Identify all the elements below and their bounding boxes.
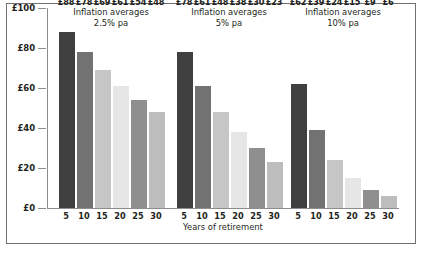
bar-value-label: £30 xyxy=(248,0,265,7)
y-axis-tick-label: £60 xyxy=(18,83,35,93)
bar[interactable]: £48 xyxy=(148,112,165,208)
bar-value-label: £61 xyxy=(194,0,211,7)
bar-slot: £6110 xyxy=(193,8,211,208)
y-axis-tick xyxy=(38,208,46,209)
x-axis-tick-label: 10 xyxy=(78,211,89,221)
bar-value-label: £23 xyxy=(266,0,283,7)
bar[interactable]: £30 xyxy=(248,148,265,208)
x-axis-tick-label: 30 xyxy=(268,211,279,221)
x-axis-line xyxy=(47,208,399,209)
bar[interactable]: £69 xyxy=(94,70,111,208)
x-axis-title: Years of retirement xyxy=(47,222,399,232)
y-axis-line xyxy=(47,8,48,209)
x-axis-tick-label: 30 xyxy=(382,211,393,221)
bar-group: Inflation averages2.5% pa£885£7810£6915£… xyxy=(57,8,165,208)
y-axis-tick-label: £100 xyxy=(12,3,35,13)
bar-slot: £7810 xyxy=(75,8,93,208)
bar[interactable]: £78 xyxy=(176,52,193,208)
bar[interactable]: £48 xyxy=(212,112,229,208)
bar[interactable]: £23 xyxy=(266,162,283,208)
y-axis-tick-label: £20 xyxy=(18,163,35,173)
bar[interactable]: £15 xyxy=(344,178,361,208)
bar[interactable]: £6 xyxy=(380,196,397,208)
bar-slot: £625 xyxy=(289,8,307,208)
x-axis-tick-label: 20 xyxy=(346,211,357,221)
bar-slot: £630 xyxy=(379,8,397,208)
x-axis-tick-label: 15 xyxy=(214,211,225,221)
bar-slot: £1520 xyxy=(343,8,361,208)
bar-value-label: £54 xyxy=(130,0,147,7)
bar-slot: £3025 xyxy=(247,8,265,208)
bar-slot: £785 xyxy=(175,8,193,208)
bar[interactable]: £78 xyxy=(76,52,93,208)
bar[interactable]: £54 xyxy=(130,100,147,208)
bar-value-label: £48 xyxy=(212,0,229,7)
bars-container: £885£7810£6915£6120£5425£4830 xyxy=(57,8,165,208)
bar-value-label: £78 xyxy=(76,0,93,7)
y-axis-tick xyxy=(38,88,46,89)
x-axis-tick-label: 15 xyxy=(328,211,339,221)
bar-group: Inflation averages10% pa£625£3910£2415£1… xyxy=(289,8,397,208)
x-axis-tick-label: 25 xyxy=(250,211,261,221)
y-axis-tick-label: £80 xyxy=(18,43,35,53)
bar[interactable]: £88 xyxy=(58,32,75,208)
y-axis-tick xyxy=(38,128,46,129)
bar-value-label: £6 xyxy=(383,0,394,7)
bars-container: £625£3910£2415£1520£925£630 xyxy=(289,8,397,208)
bar-slot: £6915 xyxy=(93,8,111,208)
bar-value-label: £88 xyxy=(58,0,75,7)
y-axis-tick-label: £0 xyxy=(23,203,35,213)
bar[interactable]: £61 xyxy=(112,86,129,208)
plot-area: £0£20£40£60£80£100 Inflation averages2.5… xyxy=(47,8,399,209)
bar-slot: £6120 xyxy=(111,8,129,208)
x-axis-tick-label: 25 xyxy=(132,211,143,221)
bar-value-label: £24 xyxy=(326,0,343,7)
bar-value-label: £62 xyxy=(290,0,307,7)
x-axis-tick-label: 5 xyxy=(295,211,301,221)
bar-value-label: £38 xyxy=(230,0,247,7)
x-axis-tick-label: 15 xyxy=(96,211,107,221)
bar-value-label: £69 xyxy=(94,0,111,7)
bar-slot: £4815 xyxy=(211,8,229,208)
bar-value-label: £78 xyxy=(176,0,193,7)
bar[interactable]: £38 xyxy=(230,132,247,208)
bar-value-label: £9 xyxy=(365,0,376,7)
x-axis-tick-label: 10 xyxy=(196,211,207,221)
bar-group: Inflation averages5% pa£785£6110£4815£38… xyxy=(175,8,283,208)
y-axis-tick xyxy=(38,8,46,9)
bar-slot: £5425 xyxy=(129,8,147,208)
x-axis-tick-label: 5 xyxy=(63,211,69,221)
bar-slot: £4830 xyxy=(147,8,165,208)
bar-value-label: £15 xyxy=(344,0,361,7)
bar-value-label: £61 xyxy=(112,0,129,7)
bars-container: £785£6110£4815£3820£3025£2330 xyxy=(175,8,283,208)
bar[interactable]: £9 xyxy=(362,190,379,208)
bar-slot: £885 xyxy=(57,8,75,208)
bar[interactable]: £24 xyxy=(326,160,343,208)
x-axis-tick-label: 25 xyxy=(364,211,375,221)
bar[interactable]: £39 xyxy=(308,130,325,208)
bar-value-label: £39 xyxy=(308,0,325,7)
y-axis-tick-label: £40 xyxy=(18,123,35,133)
x-axis-tick-label: 20 xyxy=(114,211,125,221)
x-axis-tick-label: 10 xyxy=(310,211,321,221)
y-axis-tick xyxy=(38,48,46,49)
y-axis-tick xyxy=(38,168,46,169)
bar[interactable]: £61 xyxy=(194,86,211,208)
x-axis-tick-label: 20 xyxy=(232,211,243,221)
bar[interactable]: £62 xyxy=(290,84,307,208)
bar-slot: £925 xyxy=(361,8,379,208)
bar-slot: £2330 xyxy=(265,8,283,208)
bar-slot: £3820 xyxy=(229,8,247,208)
x-axis-tick-label: 30 xyxy=(150,211,161,221)
x-axis-tick-label: 5 xyxy=(181,211,187,221)
chart-figure: £0£20£40£60£80£100 Inflation averages2.5… xyxy=(0,0,422,255)
bar-slot: £2415 xyxy=(325,8,343,208)
bar-value-label: £48 xyxy=(148,0,165,7)
bar-slot: £3910 xyxy=(307,8,325,208)
